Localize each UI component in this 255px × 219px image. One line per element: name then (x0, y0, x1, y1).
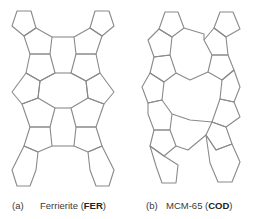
framework-code: FER (84, 200, 103, 211)
caption-label: (b) (146, 200, 166, 211)
caption-label: (a) (12, 200, 40, 211)
fer-framework-drawing (0, 0, 128, 200)
caption-mcm65: (b)MCM-65 (COD) (146, 200, 233, 211)
caption-ferrierite: (a)Ferrierite (FER) (12, 200, 106, 211)
framework-code: COD (208, 200, 229, 211)
caption-close: ) (229, 200, 232, 211)
caption-name: Ferrierite ( (40, 200, 84, 211)
ferrierite-framework-diagram (0, 0, 128, 200)
caption-name: MCM-65 ( (166, 200, 208, 211)
cod-framework-drawing (128, 0, 255, 200)
mcm65-framework-diagram (128, 0, 255, 200)
caption-close: ) (103, 200, 106, 211)
